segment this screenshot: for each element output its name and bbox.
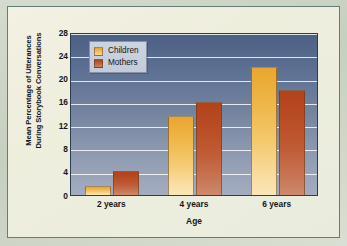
figure-root: Mean Percentage of Utterances During Sto… — [0, 0, 347, 246]
legend-item-children: Children — [94, 45, 139, 57]
y-axis-tick-label: 20 — [46, 75, 68, 84]
bar-mothers — [279, 90, 305, 195]
x-axis-tick-label: 4 years — [154, 199, 234, 210]
y-axis-title-line-1: Mean Percentage of Utterances — [24, 17, 34, 165]
bar-children — [251, 67, 277, 195]
y-axis-title-line-2: During Storybook Conversations — [34, 17, 44, 165]
y-axis-title: Mean Percentage of Utterances During Sto… — [24, 17, 43, 165]
y-axis-tick-label: 12 — [46, 122, 68, 131]
legend-item-mothers: Mothers — [94, 57, 139, 69]
x-axis-tick-label: 2 years — [71, 199, 151, 210]
y-axis-tick-label: 24 — [46, 52, 68, 61]
y-axis-tick-label: 8 — [46, 145, 68, 154]
y-axis-tick-labels: 0481216202428 — [46, 27, 68, 199]
bar-children — [168, 116, 194, 195]
x-axis-title: Age — [70, 216, 318, 226]
bar-mothers — [113, 171, 139, 195]
plot-area: Children Mothers — [70, 33, 318, 196]
y-axis-tick-label: 4 — [46, 168, 68, 177]
y-axis-tick-label: 16 — [46, 98, 68, 107]
legend-swatch-children-icon — [94, 47, 103, 56]
chart-legend: Children Mothers — [89, 41, 147, 73]
legend-swatch-mothers-icon — [94, 59, 103, 68]
bar-children — [85, 186, 111, 195]
x-axis-tick-label: 6 years — [237, 199, 317, 210]
y-axis-tick-label: 28 — [46, 29, 68, 38]
y-axis-tick-label: 0 — [46, 192, 68, 201]
chart-frame: Mean Percentage of Utterances During Sto… — [7, 6, 340, 238]
legend-label-mothers: Mothers — [108, 58, 138, 68]
x-axis-tick-labels: 2 years4 years6 years — [70, 199, 318, 213]
bar-mothers — [196, 102, 222, 195]
legend-label-children: Children — [108, 46, 139, 56]
